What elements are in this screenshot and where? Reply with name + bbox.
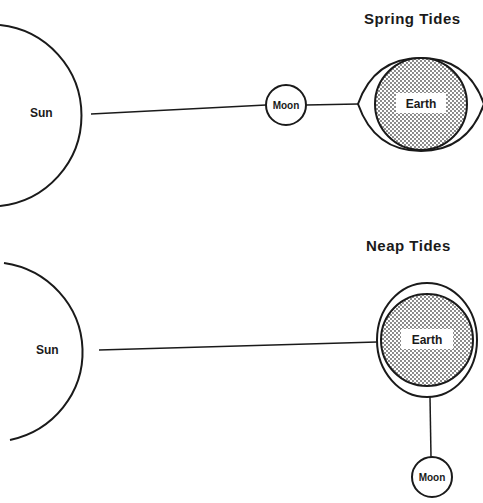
earth-label: Earth <box>406 97 437 111</box>
sun-label: Sun <box>36 343 59 357</box>
spring-tides-panel: Spring Tides Sun Moon Earth <box>0 10 483 206</box>
earth-label: Earth <box>412 333 443 347</box>
sun-moon-line <box>91 105 266 114</box>
neap-tides-panel: Neap Tides Sun Earth Moon <box>4 237 477 497</box>
sun-earth-line <box>99 342 377 350</box>
moon-label: Moon <box>419 472 446 483</box>
moon-label: Moon <box>273 100 300 111</box>
sun-label: Sun <box>30 106 53 120</box>
tides-diagram: Spring Tides Sun Moon Earth Neap Tides S… <box>0 0 483 503</box>
moon-earth-line <box>306 104 358 105</box>
neap-tides-title: Neap Tides <box>366 237 451 254</box>
earth-moon-line <box>430 397 431 457</box>
spring-tides-title: Spring Tides <box>364 10 461 27</box>
